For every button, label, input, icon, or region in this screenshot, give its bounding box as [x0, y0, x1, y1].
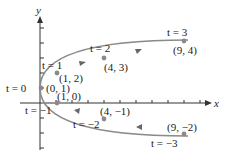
x-axis-label: x	[213, 97, 219, 109]
point-9-4	[182, 39, 187, 44]
t-label: t = −1	[25, 104, 51, 116]
arrow-icon	[136, 124, 142, 130]
t-label: t = −3	[151, 137, 178, 149]
coord-label: (4, 3)	[104, 61, 128, 74]
coord-label: (9, −2)	[167, 121, 197, 134]
point-0-1	[39, 86, 44, 91]
coord-label: (1, 0)	[57, 90, 81, 103]
t-label: t = −2	[73, 118, 99, 130]
coord-label: (4, −1)	[100, 105, 130, 118]
t-label: t = 1	[42, 59, 62, 71]
arrow-icon	[79, 61, 86, 66]
y-axis-label: y	[35, 4, 41, 16]
point-4-neg1	[102, 117, 107, 122]
t-label: t = 3	[167, 26, 188, 38]
point-4-3	[102, 56, 107, 61]
arrow-icon	[135, 49, 142, 54]
arrow-icon	[74, 108, 80, 114]
x-axis-arrow-icon	[205, 100, 212, 106]
y-axis-arrow-icon	[37, 16, 43, 23]
coord-label: (9, 4)	[173, 44, 197, 57]
t-label: t = 0	[6, 82, 27, 94]
parametric-curve-figure: x y t = 3 t = 2 t = 1 t = 0 t = −1 t = −…	[0, 0, 229, 162]
t-label: t = 2	[90, 42, 110, 54]
